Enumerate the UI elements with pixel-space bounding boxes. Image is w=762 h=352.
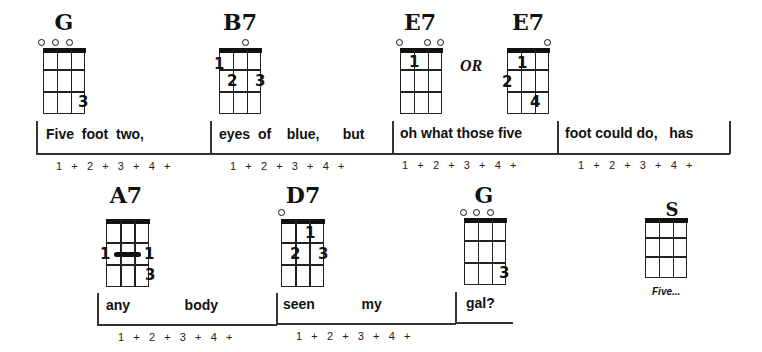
finger-number: 1: [409, 55, 419, 70]
beat-count: 1 + 2 + 3 + 4 +: [296, 330, 410, 342]
open-string-icon: [52, 39, 59, 46]
lyric-measure-6: seen my: [283, 296, 382, 312]
finger-number: 2: [227, 74, 237, 89]
chord-name-g: G: [34, 11, 94, 33]
finger-number: 3: [318, 247, 328, 262]
open-string-icon: [66, 39, 73, 46]
chord-diagram-s: [645, 218, 687, 278]
chord-name-e7-alt: E7: [498, 11, 558, 33]
open-string-icon: [242, 39, 249, 46]
chord-name-d7: D7: [273, 184, 333, 206]
lyric-measure-2: eyes of blue, but: [219, 126, 364, 142]
finger-number: 4: [530, 95, 540, 110]
caption-five: Five...: [652, 286, 680, 297]
measure-bar: [97, 293, 99, 325]
lyric-measure-3: oh what those five: [400, 125, 522, 141]
or-label: OR: [460, 57, 482, 75]
lyric-measure-5: any body: [106, 297, 218, 313]
finger-number: 3: [78, 95, 88, 110]
finger-number: 1: [214, 57, 224, 72]
open-string-icon: [473, 209, 480, 216]
open-string-icon: [278, 209, 285, 216]
lyric-baseline: [276, 323, 456, 325]
open-string-icon: [487, 209, 494, 216]
beat-count: 1 + 2 + 3 + 4 +: [118, 331, 232, 343]
lyric-baseline: [97, 324, 277, 326]
open-string-icon: [396, 39, 403, 46]
lyric-measure-7: gal?: [466, 295, 495, 311]
measure-bar: [729, 121, 731, 154]
finger-number: 2: [290, 247, 300, 262]
chord-name-a7: A7: [96, 184, 156, 206]
barre-icon: [114, 252, 141, 257]
finger-number: 3: [499, 266, 509, 281]
finger-number: 1: [305, 226, 315, 241]
open-string-icon: [38, 39, 45, 46]
lyric-measure-4: foot could do, has: [565, 125, 693, 141]
chord-diagram-e7: [400, 48, 442, 114]
open-string-icon: [437, 39, 444, 46]
chord-name-e7: E7: [390, 11, 450, 33]
open-string-icon: [460, 209, 467, 216]
finger-number: 3: [145, 268, 155, 283]
finger-number: 1: [517, 56, 527, 71]
lyric-baseline: [455, 322, 513, 324]
finger-number: 1: [144, 247, 154, 262]
finger-number: 1: [100, 247, 110, 262]
beat-count: 1 + 2 + 3 + 4 +: [56, 160, 170, 172]
chord-name-g-2: G: [454, 184, 514, 206]
open-string-icon: [424, 39, 431, 46]
measure-bar: [210, 121, 212, 154]
beat-count: 1 + 2 + 3 + 4 +: [578, 159, 692, 171]
lyric-baseline: [36, 153, 730, 155]
beat-count: 1 + 2 + 3 + 4 +: [230, 160, 344, 172]
finger-number: 3: [255, 74, 265, 89]
measure-bar: [392, 121, 394, 154]
chord-diagram-e7-alt: [507, 48, 549, 114]
open-string-icon: [544, 39, 551, 46]
measure-bar: [276, 293, 278, 325]
lyric-measure-1: Five foot two,: [46, 126, 144, 142]
finger-number: 2: [502, 75, 512, 90]
measure-bar: [455, 292, 457, 324]
chord-name-b7: B7: [210, 11, 270, 33]
measure-bar: [36, 121, 38, 154]
measure-bar: [557, 121, 559, 154]
beat-count: 1 + 2 + 3 + 4 +: [402, 159, 516, 171]
